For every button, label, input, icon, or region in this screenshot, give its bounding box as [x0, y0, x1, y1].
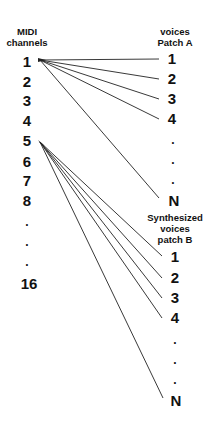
channel-label: 2 [15, 74, 39, 89]
ellipsis-dot: . [170, 374, 180, 386]
voice-label: 2 [160, 71, 184, 86]
channel-label: 1 [15, 54, 39, 69]
voice-label: 4 [163, 310, 187, 325]
voice-label: N [164, 393, 188, 408]
line-ch1-a3 [40, 60, 159, 99]
voice-label: 4 [160, 111, 184, 126]
channel-label: 5 [15, 133, 39, 148]
voice-label: 3 [163, 290, 187, 305]
line-ch1-a2 [40, 60, 159, 79]
line-ch5-bN [40, 142, 163, 398]
channel-label: 7 [15, 173, 39, 188]
channel-label: 16 [17, 276, 41, 291]
voice-label: 3 [160, 91, 184, 106]
channel-label: 4 [15, 113, 39, 128]
voice-label: 1 [160, 51, 184, 66]
ellipsis-dot: . [170, 334, 180, 346]
ellipsis-dot: . [168, 134, 178, 146]
header-line: patch B [144, 234, 206, 245]
ellipsis-dot: . [22, 236, 32, 248]
header-line: Synthesized [144, 212, 206, 223]
line-ch5-b2 [40, 142, 162, 278]
line-ch1-a1 [40, 59, 159, 60]
channel-label: 6 [15, 154, 39, 169]
voice-label: 1 [163, 249, 187, 264]
header-line: Patch A [150, 37, 200, 48]
line-ch1-aN [40, 60, 159, 198]
header-line: channels [4, 37, 50, 48]
ellipsis-dot: . [170, 354, 180, 366]
ellipsis-dot: . [168, 154, 178, 166]
header-line: voices [144, 223, 206, 234]
patch-a-header: voices Patch A [150, 26, 200, 48]
header-line: MIDI [4, 26, 50, 37]
header-line: voices [150, 26, 200, 37]
channel-label: 8 [15, 193, 39, 208]
ellipsis-dot: . [168, 174, 178, 186]
voice-label: 2 [163, 270, 187, 285]
channel-label: 3 [15, 93, 39, 108]
line-ch1-a4 [40, 60, 159, 119]
ellipsis-dot: . [22, 216, 32, 228]
midi-channels-header: MIDI channels [4, 26, 50, 48]
ellipsis-dot: . [22, 256, 32, 268]
patch-b-header: Synthesized voices patch B [144, 212, 206, 245]
voice-label: N [162, 193, 186, 208]
